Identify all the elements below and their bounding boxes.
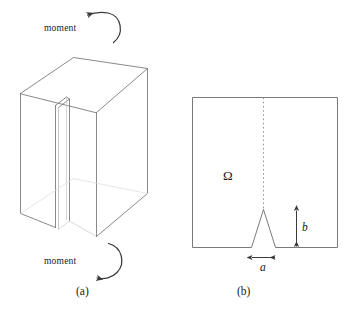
moment-arrow-bottom bbox=[97, 244, 122, 279]
dim-a-label: a bbox=[260, 262, 266, 274]
domain-omega-label: Ω bbox=[223, 169, 233, 182]
block-bottom-right-front bbox=[70, 221, 97, 237]
block-bottom-slot-base bbox=[59, 221, 70, 230]
caption-a: (a) bbox=[76, 286, 89, 298]
panel-a-block bbox=[21, 58, 148, 237]
moment-label-top: moment bbox=[44, 24, 76, 34]
figure-root: moment moment (a) Ω b a (b) bbox=[0, 0, 356, 320]
moment-arrow-top bbox=[88, 12, 121, 42]
block-bottom-front-to-right bbox=[97, 194, 148, 237]
caption-b: (b) bbox=[237, 286, 250, 298]
block-bottom-left bbox=[21, 214, 56, 228]
block-top-slot bbox=[56, 97, 70, 108]
dim-b-label: b bbox=[302, 222, 308, 234]
panel-b-domain bbox=[193, 98, 338, 258]
domain-outline bbox=[193, 98, 338, 248]
moment-label-bottom: moment bbox=[44, 257, 76, 267]
figure-svg bbox=[0, 0, 356, 320]
block-bottom-back-hidden bbox=[21, 179, 148, 214]
block-top-face bbox=[21, 58, 148, 113]
